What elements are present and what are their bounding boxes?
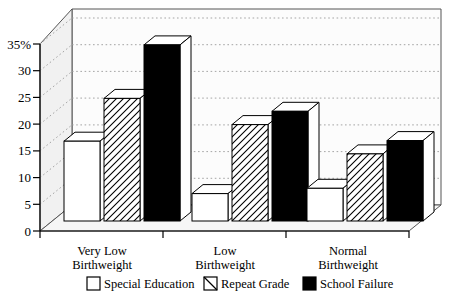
y-tick-label-25: 25 [18, 90, 31, 105]
y-tick-label-5: 5 [25, 197, 32, 212]
y-tick-label-10: 10 [18, 170, 31, 185]
y-tick-label-15: 15 [18, 143, 31, 158]
legend-item-special-education[interactable]: Special Education [87, 277, 195, 291]
category-label-very-low-line1: Very Low [77, 244, 127, 258]
y-axis-ticks [33, 44, 40, 231]
category-label-low-line2: Birthweight [195, 258, 255, 272]
bar-side-face [423, 132, 434, 221]
category-label-very-low-line2: Birthweight [72, 258, 132, 272]
legend-label-school-failure: School Failure [320, 277, 394, 291]
bar-front-face [144, 45, 180, 221]
x-axis-ticks [40, 231, 409, 238]
y-tick-label-20: 20 [18, 117, 31, 132]
y-tick-label-0: 0 [25, 224, 32, 239]
y-tick-label-35: 35% [7, 37, 31, 52]
legend-item-school-failure[interactable]: School Failure [303, 277, 394, 291]
category-label-normal-line2: Birthweight [318, 258, 378, 272]
bar-front-face [192, 194, 228, 221]
category-label-low-line1: Low [214, 244, 237, 258]
category-labels: Very Low Birthweight Low Birthweight Nor… [72, 244, 378, 272]
legend-swatch-white-icon [87, 277, 100, 290]
legend-swatch-black-icon [303, 277, 316, 290]
bar-very-low-school-failure[interactable] [144, 36, 191, 221]
bar-front-face [387, 141, 423, 221]
bar-front-face [272, 111, 308, 221]
chart-canvas: 35% 30 25 20 15 10 5 0 [0, 0, 449, 296]
x-axis [40, 231, 409, 238]
bar-front-face [232, 125, 268, 221]
bar-front-face [64, 141, 100, 221]
chart-legend: Special Education Repeat Grade School Fa… [87, 277, 394, 291]
legend-label-repeat-grade: Repeat Grade [221, 277, 290, 291]
bar-front-face [104, 98, 140, 221]
bar-side-face [180, 36, 191, 221]
category-label-normal-line1: Normal [329, 244, 368, 258]
bar-chart-figure: 35% 30 25 20 15 10 5 0 [0, 0, 449, 296]
bar-normal-school-failure[interactable] [387, 132, 434, 221]
legend-label-special-education: Special Education [104, 277, 195, 291]
bar-front-face [347, 154, 383, 221]
legend-item-repeat-grade[interactable]: Repeat Grade [204, 277, 290, 291]
bar-front-face [307, 188, 343, 221]
y-tick-label-30: 30 [18, 63, 31, 78]
y-axis: 35% 30 25 20 15 10 5 0 [7, 37, 40, 239]
